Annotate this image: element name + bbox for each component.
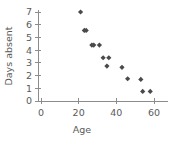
data-point <box>106 55 111 60</box>
x-axis-title: Age <box>73 124 92 135</box>
x-tick-label: 0 <box>38 107 44 118</box>
y-tick-label: 1 <box>26 83 32 94</box>
data-point <box>140 89 145 94</box>
data-point <box>78 9 83 14</box>
y-tick-label: 6 <box>26 19 32 30</box>
data-point <box>148 89 153 94</box>
data-point <box>138 77 143 82</box>
y-tick-label: 5 <box>26 32 32 43</box>
y-tick-label: 0 <box>26 95 32 106</box>
data-point <box>104 63 109 68</box>
scatter-plot-figure: 01234567 0204060 Age Days absent <box>0 0 173 142</box>
data-point <box>119 65 124 70</box>
x-axis: 0204060 <box>38 98 168 118</box>
x-tick-label: 60 <box>148 107 160 118</box>
data-point <box>101 55 106 60</box>
x-tick-label: 20 <box>73 107 85 118</box>
y-tick-label: 7 <box>26 6 32 17</box>
y-tick-label: 2 <box>26 70 32 81</box>
data-point <box>125 76 130 81</box>
data-points-layer <box>78 9 153 94</box>
chart-canvas: 01234567 0204060 Age Days absent <box>0 0 173 142</box>
x-tick-label: 40 <box>110 107 122 118</box>
y-tick-label: 4 <box>26 45 32 56</box>
data-point <box>97 42 102 47</box>
y-tick-label: 3 <box>26 57 32 68</box>
y-axis: 01234567 <box>26 6 41 106</box>
y-axis-title: Days absent <box>3 26 14 85</box>
